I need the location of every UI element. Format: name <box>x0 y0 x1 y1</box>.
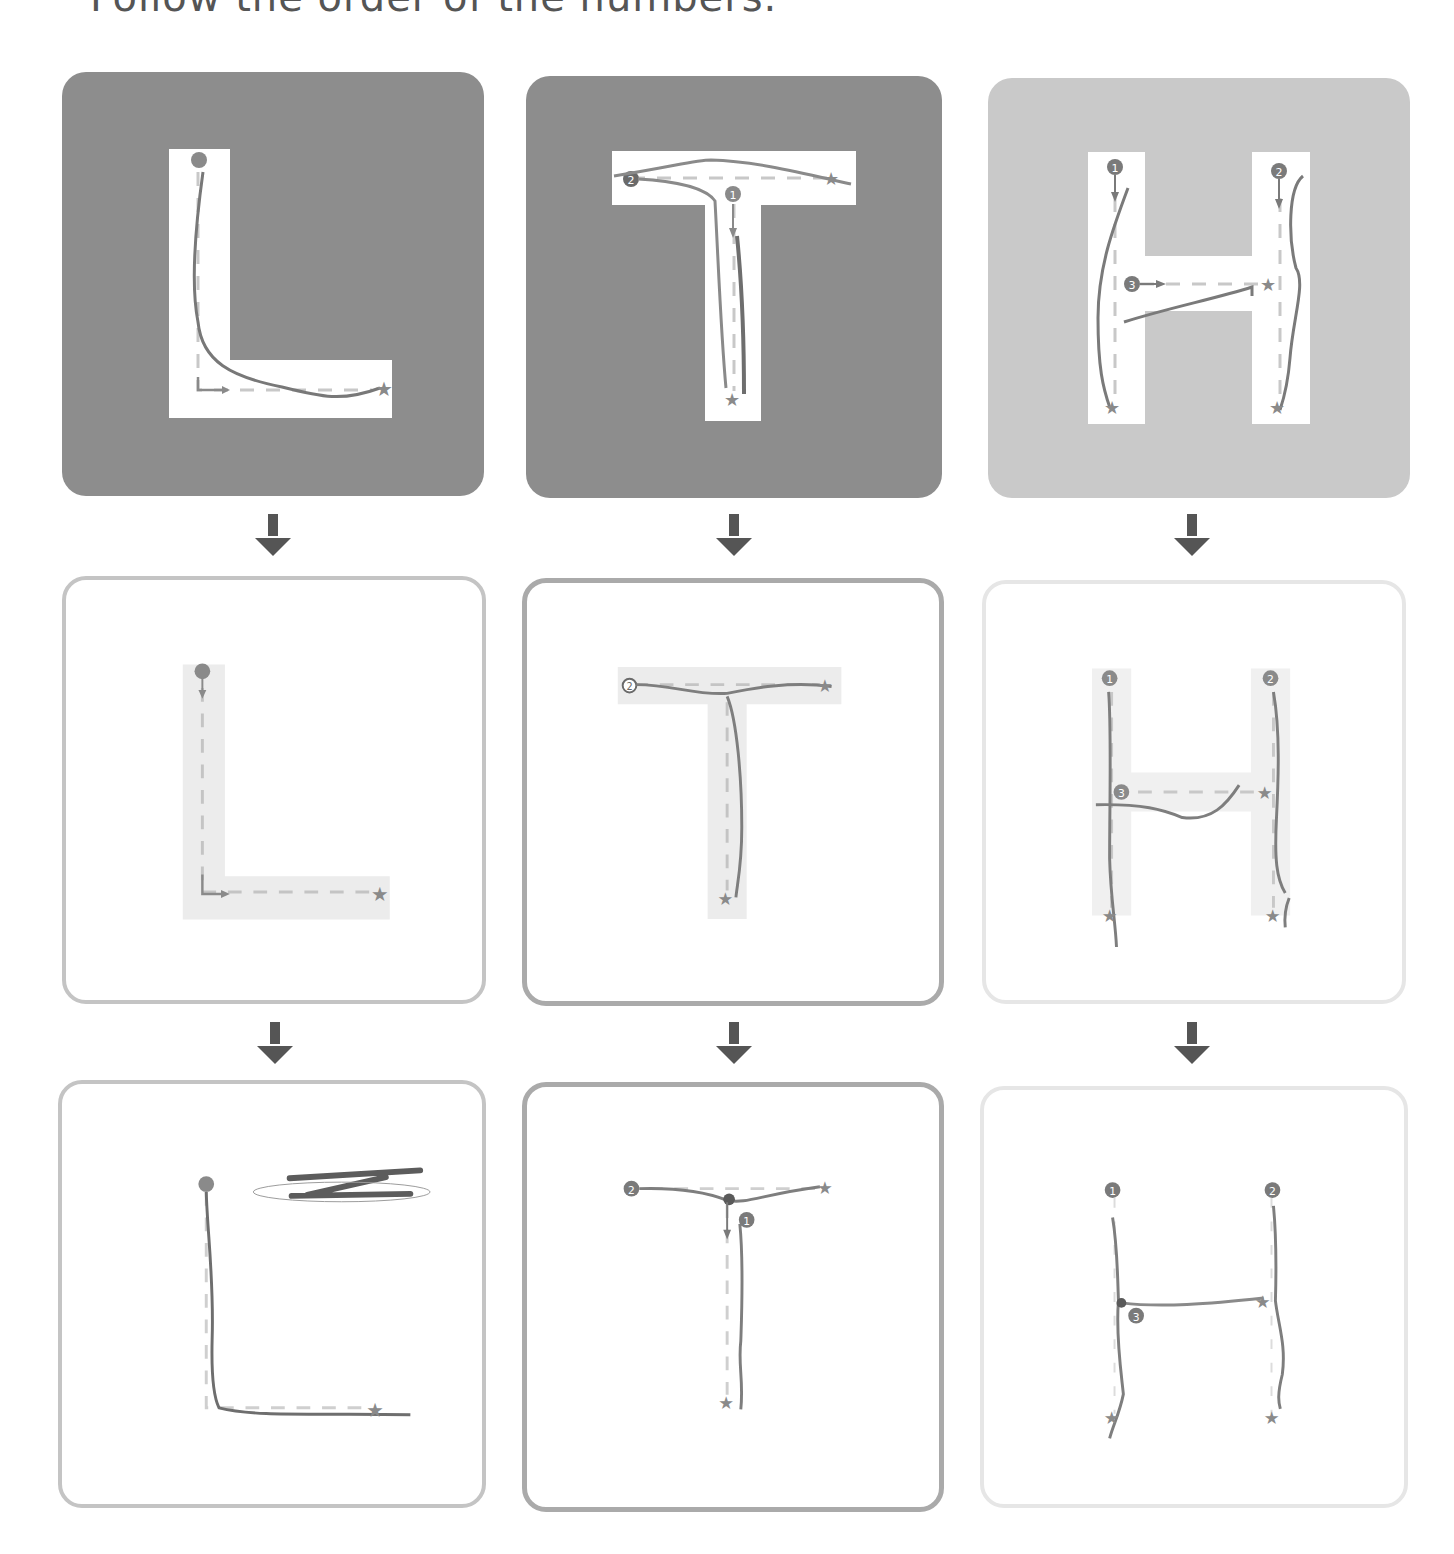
svg-text:★: ★ <box>366 1399 384 1422</box>
svg-text:★: ★ <box>371 883 389 906</box>
down-arrow-icon <box>714 1022 754 1066</box>
svg-text:★: ★ <box>823 168 839 189</box>
svg-text:★: ★ <box>1264 1408 1280 1428</box>
svg-text:★: ★ <box>724 389 740 410</box>
panel-t-guide: 2 ★ ★ <box>522 578 944 1006</box>
panel-h-freehand: 1 2 3 ★ ★ ★ <box>980 1086 1408 1508</box>
down-arrow-icon <box>255 1022 295 1066</box>
down-arrow-icon <box>714 514 754 558</box>
svg-text:3: 3 <box>1129 279 1136 292</box>
panel-l-freehand: ★ <box>58 1080 486 1508</box>
letter-l-trace-diagram: ★ <box>62 72 484 496</box>
svg-text:3: 3 <box>1133 1311 1140 1324</box>
svg-text:2: 2 <box>1269 1185 1276 1198</box>
start-dot-icon <box>191 152 207 168</box>
svg-text:★: ★ <box>1104 1408 1120 1428</box>
panel-l-template: ★ <box>62 72 484 496</box>
svg-text:★: ★ <box>1260 274 1276 295</box>
svg-text:★: ★ <box>817 1178 833 1198</box>
panel-h-guide: 1 2 3 ★ ★ ★ <box>982 580 1406 1004</box>
svg-text:★: ★ <box>1265 906 1281 926</box>
svg-text:1: 1 <box>1106 673 1113 686</box>
svg-text:★: ★ <box>817 676 833 696</box>
letter-t-trace-diagram: 1 2 ★ ★ <box>526 76 942 498</box>
panel-h-template: 1 2 3 ★ ★ ★ <box>988 78 1410 498</box>
svg-text:3: 3 <box>1118 787 1125 800</box>
panel-t-freehand: 2 1 ★ ★ <box>522 1082 944 1512</box>
down-arrow-icon <box>253 514 293 558</box>
down-arrow-icon <box>1172 1022 1212 1066</box>
svg-text:★: ★ <box>1255 1292 1271 1312</box>
svg-text:2: 2 <box>1267 673 1274 686</box>
down-arrow-icon <box>1172 514 1212 558</box>
svg-text:2: 2 <box>628 174 635 187</box>
svg-text:★: ★ <box>717 889 733 909</box>
svg-text:1: 1 <box>743 1215 750 1228</box>
letter-h-trace-diagram: 1 2 3 ★ ★ ★ <box>988 78 1410 498</box>
panel-l-guide: ★ <box>62 576 486 1004</box>
svg-text:★: ★ <box>1104 397 1120 418</box>
svg-text:2: 2 <box>1276 166 1283 179</box>
svg-text:1: 1 <box>1109 1185 1116 1198</box>
svg-text:★: ★ <box>1269 397 1285 418</box>
svg-text:★: ★ <box>1102 906 1118 926</box>
end-star-icon: ★ <box>375 377 393 401</box>
panel-t-template: 1 2 ★ ★ <box>526 76 942 498</box>
svg-text:1: 1 <box>730 189 737 202</box>
svg-text:2: 2 <box>626 681 632 692</box>
svg-text:2: 2 <box>628 1184 635 1197</box>
svg-text:1: 1 <box>1112 162 1119 175</box>
instruction-caption: Follow the order of the numbers. <box>90 0 777 20</box>
svg-text:★: ★ <box>718 1393 734 1413</box>
svg-text:★: ★ <box>1257 783 1273 803</box>
